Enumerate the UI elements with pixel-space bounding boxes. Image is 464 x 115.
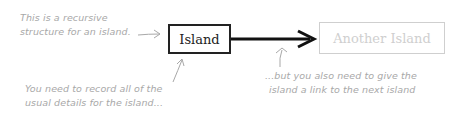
annotation-text: structure for an island. [20,25,131,39]
annotation-details: You need to record all of the usual deta… [25,82,163,110]
annotation-recursive: This is a recursive structure for an isl… [20,11,131,39]
node-label: Another Island [333,31,431,46]
node-another-island: Another Island [319,22,445,54]
annotation-text: This is a recursive [20,11,131,25]
annotation-arrow-icon [173,59,184,82]
annotation-text: You need to record all of the [25,82,163,96]
annotation-arrow-icon [138,30,160,38]
annotation-text: ...but you also need to give the [265,69,417,83]
annotation-arrow-icon [276,48,287,67]
annotation-link: ...but you also need to give the island … [265,69,417,97]
node-label: Island [179,32,219,47]
node-island: Island [168,24,231,54]
link-arrow-icon [231,31,314,47]
annotation-text: usual details for the island... [25,96,163,110]
annotation-text: island a link to the next island [265,83,417,97]
